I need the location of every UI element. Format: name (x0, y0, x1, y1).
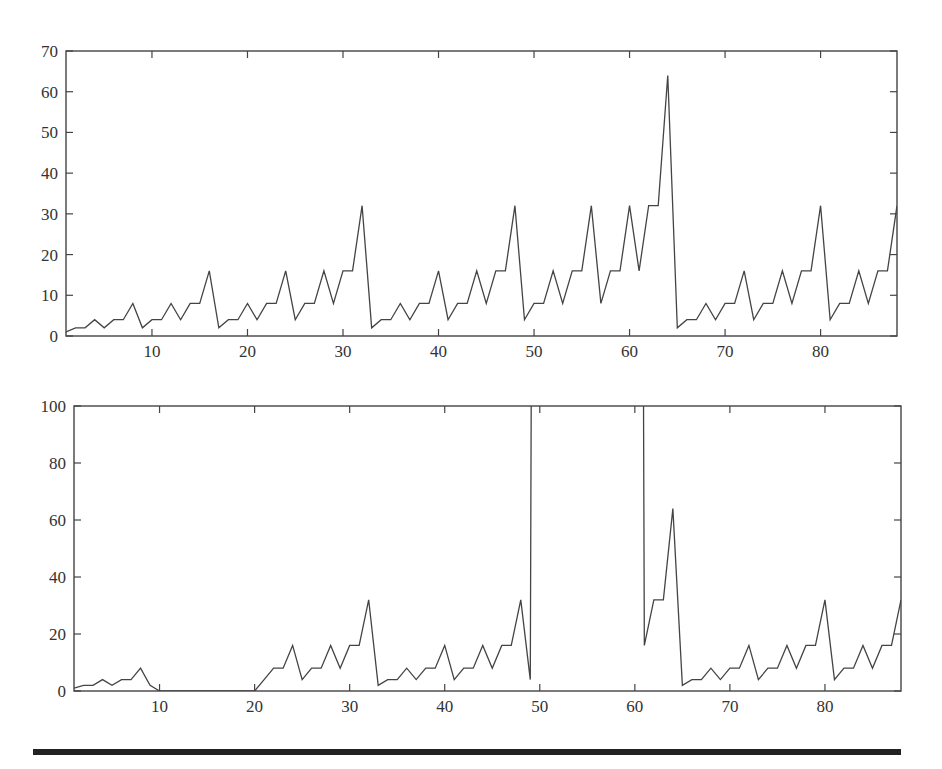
x-tick-label: 40 (436, 697, 453, 716)
plot-frame (66, 51, 897, 336)
x-tick-label: 30 (341, 697, 358, 716)
data-series-line (74, 0, 901, 691)
y-tick-label: 80 (49, 454, 66, 473)
x-tick-label: 30 (335, 342, 352, 361)
y-tick-label: 20 (49, 625, 66, 644)
y-tick-label: 40 (41, 164, 58, 183)
plot-frame (74, 406, 901, 691)
bottom-line-chart: 1020304050607080020406080100 (41, 0, 902, 716)
x-tick-label: 50 (531, 697, 548, 716)
top-line-chart: 1020304050607080010203040506070 (41, 42, 897, 361)
y-tick-label: 0 (58, 682, 67, 701)
y-tick-label: 20 (41, 246, 58, 265)
data-series-line (66, 75, 897, 332)
y-tick-label: 10 (41, 286, 58, 305)
y-tick-label: 60 (49, 511, 66, 530)
y-tick-label: 0 (50, 327, 59, 346)
y-tick-label: 60 (41, 83, 58, 102)
y-tick-label: 50 (41, 123, 58, 142)
y-tick-label: 30 (41, 205, 58, 224)
y-tick-label: 40 (49, 568, 66, 587)
section-rule (33, 749, 901, 755)
x-tick-label: 20 (239, 342, 256, 361)
x-tick-label: 60 (626, 697, 643, 716)
x-tick-label: 10 (143, 342, 160, 361)
x-tick-label: 40 (430, 342, 447, 361)
x-tick-label: 70 (717, 342, 734, 361)
y-tick-label: 70 (41, 42, 58, 61)
y-tick-label: 100 (41, 397, 67, 416)
x-tick-label: 80 (812, 342, 829, 361)
x-tick-label: 50 (526, 342, 543, 361)
x-tick-label: 60 (621, 342, 638, 361)
x-tick-label: 70 (721, 697, 738, 716)
x-tick-label: 10 (151, 697, 168, 716)
x-tick-label: 20 (246, 697, 263, 716)
x-tick-label: 80 (816, 697, 833, 716)
figure: 1020304050607080010203040506070 10203040… (0, 0, 942, 769)
